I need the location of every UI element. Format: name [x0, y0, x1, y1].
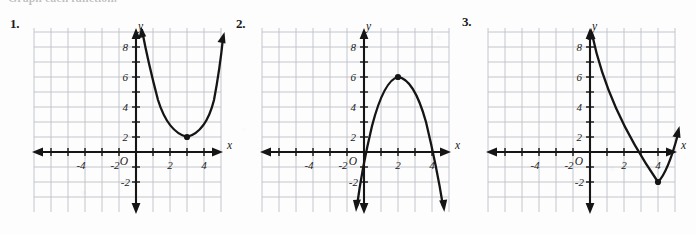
- parabola-curve-3: [592, 34, 678, 182]
- problem-2: 2.: [228, 0, 460, 235]
- problem-2-graph: -4 -2 2 4 8 6 4 2 -2 O y x: [256, 22, 456, 222]
- coordinate-plane-1: -4 -2 2 4 8 6 4 2 -2 O y x: [28, 22, 228, 222]
- worksheet-page: Graph each function. 1.: [0, 0, 696, 235]
- problem-3-number: 3.: [462, 14, 471, 30]
- vertex-point-1: [184, 134, 190, 140]
- problem-2-number: 2.: [236, 16, 245, 32]
- y-tick-label-8-1: 8: [123, 41, 129, 53]
- curve-arrows-3: [588, 28, 681, 138]
- y-tick-label-6-2: 6: [351, 71, 357, 83]
- problem-1-graph: -4 -2 2 4 8 6 4 2 -2 O y x: [28, 22, 228, 222]
- curve-arrows-1: [138, 27, 225, 44]
- x-axis-label-3: x: [680, 139, 687, 151]
- problem-1-number: 1.: [10, 16, 19, 32]
- vertex-point-2: [395, 74, 401, 80]
- y-tick-label-2-3: 2: [577, 131, 583, 143]
- y-tick-label-8-3: 8: [577, 41, 583, 53]
- y-tick-label-neg2-3: -2: [575, 176, 585, 188]
- y-tick-label-2-1: 2: [123, 131, 129, 143]
- x-tick-label-2-2: 2: [395, 159, 401, 171]
- y-tick-label-neg2-2: -2: [349, 176, 359, 188]
- parabola-curve-2: [357, 77, 443, 206]
- x-tick-label-2-1: 2: [167, 159, 173, 171]
- y-tick-label-4-1: 4: [123, 101, 129, 113]
- coordinate-plane-2: -4 -2 2 4 8 6 4 2 -2 O y x: [256, 22, 456, 222]
- problem-1: 1.: [0, 0, 232, 235]
- x-tick-label-neg2-2: -2: [338, 159, 348, 171]
- x-tick-label-neg2-1: -2: [110, 159, 120, 171]
- x-tick-label-neg4-2: -4: [304, 159, 314, 171]
- problem-3-graph: -4 -2 2 4 8 6 4 2 -2 O y x: [482, 22, 682, 222]
- parabola-curve-1: [142, 30, 223, 137]
- x-tick-label-neg4-1: -4: [76, 159, 86, 171]
- y-tick-label-neg2-1: -2: [121, 176, 131, 188]
- x-tick-label-4-1: 4: [201, 159, 207, 171]
- y-axis-label-2: y: [365, 20, 372, 33]
- x-tick-label-4-3: 4: [655, 159, 661, 171]
- problem-3: 3.: [456, 0, 688, 235]
- x-tick-label-2-3: 2: [621, 159, 627, 171]
- x-tick-label-neg2-3: -2: [564, 159, 574, 171]
- origin-label-1: O: [120, 155, 129, 167]
- y-tick-label-2-2: 2: [351, 131, 357, 143]
- x-tick-label-neg4-3: -4: [530, 159, 540, 171]
- y-tick-label-6-1: 6: [123, 71, 129, 83]
- origin-label-3: O: [575, 155, 584, 167]
- y-tick-label-4-2: 4: [351, 101, 357, 113]
- y-tick-label-4-3: 4: [577, 101, 583, 113]
- y-tick-label-8-2: 8: [351, 41, 357, 53]
- origin-label-2: O: [349, 155, 358, 167]
- vertex-point-3: [655, 179, 661, 185]
- y-tick-label-6-3: 6: [577, 71, 583, 83]
- coordinate-plane-3: -4 -2 2 4 8 6 4 2 -2 O y x: [482, 22, 682, 222]
